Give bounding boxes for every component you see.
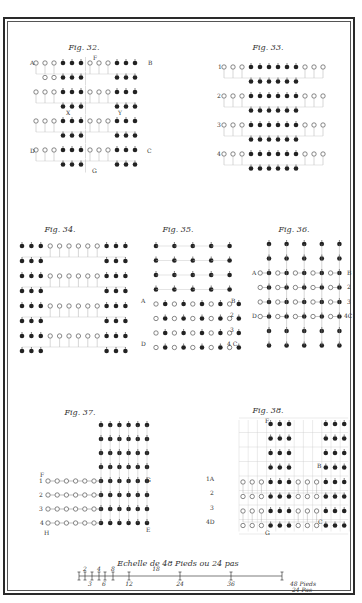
- open-soldier-icon: [303, 94, 307, 98]
- point-label: A: [29, 59, 35, 66]
- filled-soldier-icon: [114, 274, 119, 279]
- filled-soldier-icon: [333, 465, 338, 470]
- open-soldier-icon: [328, 285, 332, 289]
- figure-title: Fig. 34.: [43, 225, 75, 234]
- open-soldier-icon: [64, 507, 68, 511]
- open-soldier-icon: [97, 61, 101, 65]
- open-soldier-icon: [259, 509, 263, 513]
- filled-soldier-icon: [200, 331, 205, 336]
- open-soldier-icon: [83, 521, 87, 525]
- filled-soldier-icon: [276, 152, 281, 157]
- filled-soldier-icon: [249, 94, 254, 99]
- point-label: 2: [39, 491, 43, 498]
- filled-soldier-icon: [249, 108, 254, 113]
- filled-soldier-icon: [114, 244, 119, 249]
- point-label: C: [318, 518, 323, 525]
- open-soldier-icon: [43, 148, 47, 152]
- point-label: 3: [347, 298, 351, 305]
- open-soldier-icon: [209, 331, 213, 335]
- point-label: 3: [230, 326, 234, 333]
- filled-soldier-icon: [276, 108, 281, 113]
- filled-soldier-icon: [29, 289, 34, 294]
- open-soldier-icon: [52, 75, 56, 79]
- point-label: D: [252, 312, 257, 319]
- filled-soldier-icon: [104, 289, 109, 294]
- point-label: 3: [210, 504, 214, 511]
- filled-soldier-icon: [39, 289, 44, 294]
- filled-soldier-icon: [227, 258, 232, 263]
- open-soldier-icon: [55, 479, 59, 483]
- open-soldier-icon: [241, 509, 245, 513]
- figure-fig35: Fig. 35.AB23D4 C: [140, 225, 241, 350]
- open-soldier-icon: [67, 244, 71, 248]
- filled-soldier-icon: [115, 61, 120, 66]
- open-soldier-icon: [67, 304, 71, 308]
- figure-fig38: Fig. 38.FB1A234DCG: [206, 406, 349, 536]
- open-soldier-icon: [191, 331, 195, 335]
- filled-soldier-icon: [227, 287, 232, 292]
- filled-soldier-icon: [163, 316, 168, 321]
- filled-soldier-icon: [29, 319, 34, 324]
- figure-title: Fig. 35.: [161, 225, 193, 234]
- open-soldier-icon: [46, 521, 50, 525]
- filled-soldier-icon: [294, 108, 299, 113]
- filled-soldier-icon: [294, 166, 299, 171]
- open-soldier-icon: [95, 304, 99, 308]
- open-soldier-icon: [321, 123, 325, 127]
- open-soldier-icon: [76, 304, 80, 308]
- figure-fig36: Fig. 36.AB23D4C: [251, 225, 353, 348]
- open-soldier-icon: [97, 119, 101, 123]
- filled-soldier-icon: [258, 65, 263, 70]
- filled-soldier-icon: [287, 480, 292, 485]
- open-soldier-icon: [250, 509, 254, 513]
- open-soldier-icon: [43, 119, 47, 123]
- open-soldier-icon: [321, 152, 325, 156]
- open-soldier-icon: [311, 314, 315, 318]
- filled-soldier-icon: [20, 334, 25, 339]
- scale-bar-title: Echelle de 48 Pieds ou 24 pas: [116, 559, 238, 568]
- filled-soldier-icon: [79, 104, 84, 109]
- filled-soldier-icon: [70, 162, 75, 167]
- filled-soldier-icon: [114, 259, 119, 264]
- open-soldier-icon: [276, 285, 280, 289]
- open-soldier-icon: [231, 94, 235, 98]
- filled-soldier-icon: [133, 148, 138, 153]
- figure-title: Fig. 33.: [251, 43, 283, 52]
- open-soldier-icon: [305, 509, 309, 513]
- filled-soldier-icon: [79, 162, 84, 167]
- filled-soldier-icon: [342, 436, 347, 441]
- open-soldier-icon: [209, 345, 213, 349]
- filled-soldier-icon: [133, 61, 138, 66]
- filled-soldier-icon: [258, 94, 263, 99]
- filled-soldier-icon: [227, 244, 232, 249]
- filled-soldier-icon: [285, 65, 290, 70]
- filled-soldier-icon: [285, 79, 290, 84]
- filled-soldier-icon: [249, 65, 254, 70]
- open-soldier-icon: [305, 480, 309, 484]
- point-label: 1A: [206, 475, 215, 482]
- open-soldier-icon: [154, 345, 158, 349]
- point-label: A: [251, 269, 257, 276]
- filled-soldier-icon: [258, 79, 263, 84]
- open-soldier-icon: [293, 314, 297, 318]
- filled-soldier-icon: [115, 119, 120, 124]
- open-soldier-icon: [86, 274, 90, 278]
- open-soldier-icon: [241, 494, 245, 498]
- open-soldier-icon: [222, 152, 226, 156]
- open-soldier-icon: [46, 479, 50, 483]
- open-soldier-icon: [43, 61, 47, 65]
- filled-soldier-icon: [324, 480, 329, 485]
- filled-soldier-icon: [237, 302, 242, 307]
- filled-soldier-icon: [104, 304, 109, 309]
- filled-soldier-icon: [123, 349, 128, 354]
- filled-soldier-icon: [278, 436, 283, 441]
- open-soldier-icon: [276, 314, 280, 318]
- open-soldier-icon: [276, 271, 280, 275]
- filled-soldier-icon: [20, 349, 25, 354]
- open-soldier-icon: [241, 480, 245, 484]
- open-soldier-icon: [305, 523, 309, 527]
- filled-soldier-icon: [79, 148, 84, 153]
- filled-soldier-icon: [20, 319, 25, 324]
- open-soldier-icon: [76, 244, 80, 248]
- open-soldier-icon: [222, 123, 226, 127]
